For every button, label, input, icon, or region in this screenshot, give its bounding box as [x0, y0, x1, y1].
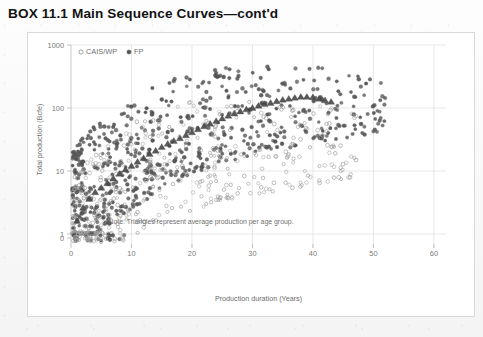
data-point-fp	[158, 163, 162, 167]
data-point-cais-wp	[224, 183, 228, 187]
data-point-cais-wp	[330, 163, 334, 167]
data-point-cais-wp	[249, 191, 253, 195]
data-point-fp	[196, 85, 200, 89]
chart-legend: CAIS/WPFP	[79, 47, 144, 56]
data-point-cais-wp	[257, 182, 260, 185]
data-point-cais-wp	[312, 112, 316, 116]
data-point-cais-wp	[157, 213, 161, 217]
data-point-fp	[224, 66, 228, 70]
data-point-fp	[133, 154, 137, 158]
data-point-fp	[237, 74, 241, 78]
data-point-cais-wp	[164, 196, 167, 199]
data-point-fp	[383, 103, 387, 107]
data-point-fp	[257, 87, 261, 91]
data-point-fp	[275, 145, 279, 149]
data-point-cais-wp	[199, 180, 202, 183]
data-point-fp	[151, 86, 155, 90]
data-point-fp	[335, 80, 338, 83]
data-point-cais-wp	[161, 132, 164, 135]
data-point-fp	[163, 182, 166, 185]
data-point-fp	[140, 147, 144, 151]
legend-label-fp: FP	[134, 47, 144, 56]
data-point-fp	[127, 176, 130, 179]
data-point-cais-wp	[176, 166, 179, 169]
data-point-fp	[198, 101, 202, 105]
data-point-fp	[233, 151, 237, 155]
data-point-cais-wp	[90, 158, 94, 162]
data-point-cais-wp	[213, 161, 216, 164]
y-axis-tick-labels: 11010010000	[48, 41, 64, 243]
data-point-fp	[169, 173, 173, 177]
data-point-cais-wp	[318, 181, 322, 185]
data-point-cais-wp	[118, 232, 121, 235]
data-point-fp	[368, 78, 372, 82]
data-point-cais-wp	[144, 136, 147, 139]
data-point-cais-wp	[262, 191, 265, 194]
data-point-fp	[321, 129, 324, 132]
data-point-fp	[345, 136, 348, 139]
data-point-fp	[170, 129, 174, 133]
data-point-fp	[81, 160, 85, 164]
data-point-fp	[71, 164, 74, 167]
data-point-fp	[353, 124, 357, 128]
data-point-cais-wp	[259, 185, 263, 189]
data-point-cais-wp	[182, 123, 185, 126]
x-tick-label: 30	[248, 249, 256, 258]
data-point-fp	[354, 128, 357, 131]
data-point-fp	[110, 206, 114, 210]
data-point-fp	[294, 120, 298, 124]
data-point-fp	[164, 171, 167, 174]
data-point-fp	[248, 146, 252, 150]
data-point-fp	[109, 190, 113, 194]
data-point-cais-wp	[141, 142, 145, 146]
data-point-cais-wp	[142, 226, 146, 230]
data-point-fp	[289, 87, 293, 91]
data-point-fp	[333, 107, 336, 110]
data-point-fp	[228, 67, 232, 71]
data-point-fp	[340, 101, 343, 104]
data-point-cais-wp	[188, 209, 191, 212]
data-point-fp	[92, 140, 95, 143]
data-point-cais-wp	[284, 181, 288, 185]
data-point-fp	[282, 135, 286, 139]
data-point-cais-wp	[209, 181, 212, 184]
data-point-fp	[308, 117, 312, 121]
legend-marker-cais-wp	[79, 50, 83, 54]
data-point-cais-wp	[200, 195, 203, 198]
data-point-fp	[381, 124, 384, 127]
data-point-fp	[268, 133, 272, 137]
data-point-fp	[164, 135, 168, 139]
data-point-cais-wp	[319, 105, 322, 108]
data-point-cais-wp	[318, 165, 321, 168]
data-point-fp	[222, 130, 225, 133]
data-point-fp	[93, 148, 96, 151]
data-point-fp	[132, 103, 136, 107]
data-point-fp	[256, 134, 260, 138]
data-point-fp	[217, 160, 221, 164]
data-point-cais-wp	[107, 226, 111, 230]
data-point-cais-wp	[171, 182, 174, 185]
data-point-fp	[213, 68, 217, 72]
data-point-fp	[243, 134, 247, 138]
data-point-cais-wp	[148, 135, 152, 139]
data-point-fp	[359, 85, 363, 89]
data-point-fp	[129, 117, 133, 121]
y-tick-label: 1000	[48, 41, 64, 50]
data-point-fp	[102, 124, 106, 128]
data-point-fp	[150, 110, 153, 113]
data-point-cais-wp	[323, 164, 327, 168]
data-point-fp	[282, 130, 286, 134]
data-point-fp	[295, 80, 299, 84]
data-point-fp	[383, 119, 386, 122]
data-point-fp	[339, 92, 343, 96]
average-triangle-marker	[327, 98, 334, 104]
data-point-fp	[261, 124, 265, 128]
data-point-fp	[221, 85, 224, 88]
data-point-fp	[383, 96, 387, 100]
data-point-fp	[137, 110, 141, 114]
data-point-cais-wp	[198, 185, 201, 188]
data-point-cais-wp	[116, 196, 119, 199]
data-point-cais-wp	[201, 179, 204, 182]
data-point-fp	[125, 182, 129, 186]
data-point-fp	[73, 209, 76, 212]
